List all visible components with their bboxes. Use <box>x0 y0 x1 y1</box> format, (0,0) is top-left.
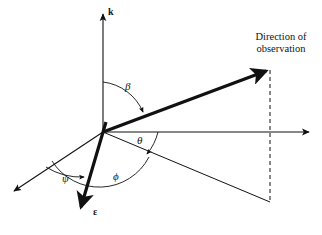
epsilon-vector <box>81 122 106 207</box>
angle-phi-label: ϕ <box>113 170 119 182</box>
observation-label-line2: observation <box>257 43 306 54</box>
projection-line <box>103 132 270 202</box>
figure-root: k ε β θ ϕ ψ Direction ofobservation <box>0 0 322 235</box>
beta-arc <box>103 82 143 112</box>
observation-label-line1: Direction of <box>255 31 306 42</box>
epsilon-vector-label: ε <box>93 206 97 217</box>
observation-direction-label: Direction ofobservation <box>243 31 319 55</box>
k-axis-label: k <box>108 6 114 17</box>
angle-theta-label: θ <box>137 134 142 146</box>
angle-beta-label: β <box>125 80 130 92</box>
angle-psi-label: ψ <box>62 172 69 184</box>
